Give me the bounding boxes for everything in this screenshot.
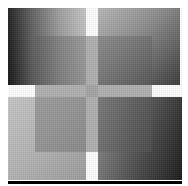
horizontal-gutter-overlay <box>35 85 152 97</box>
figure-canvas: Abstract grayscale composition: four gra… <box>0 0 188 186</box>
bottom-rule <box>8 181 182 184</box>
